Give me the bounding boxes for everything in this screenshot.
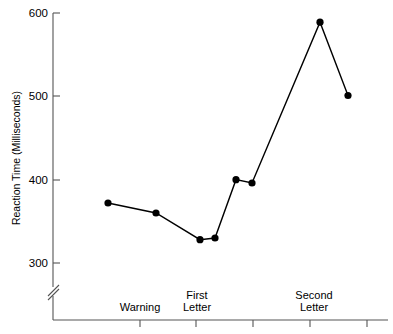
y-tick-label-600: 600 [29, 7, 48, 19]
y-tick-label-400: 400 [29, 174, 48, 186]
data-point [344, 92, 351, 99]
line-chart-plot: 600 500 400 300 Reaction Time (Milliseco… [0, 0, 393, 334]
data-point [196, 236, 203, 243]
x-label-second-line2: Letter [300, 301, 328, 313]
x-label-second-line1: Second [295, 289, 332, 301]
data-point [316, 19, 323, 26]
chart-container: 600 500 400 300 Reaction Time (Milliseco… [0, 0, 393, 334]
data-point [248, 179, 255, 186]
data-point [104, 199, 111, 206]
x-label-first-line2: Letter [183, 301, 211, 313]
y-tick-marks [53, 13, 60, 263]
y-axis-title: Reaction Time (Milliseconds) [10, 91, 22, 225]
data-point [232, 176, 239, 183]
y-tick-label-300: 300 [29, 257, 48, 269]
x-label-warning: Warning [120, 301, 161, 313]
y-tick-label-500: 500 [29, 90, 48, 102]
x-label-first-line1: First [186, 289, 207, 301]
data-point [211, 234, 218, 241]
x-tick-marks [140, 320, 367, 327]
data-series-line [108, 22, 348, 240]
data-point [152, 209, 159, 216]
